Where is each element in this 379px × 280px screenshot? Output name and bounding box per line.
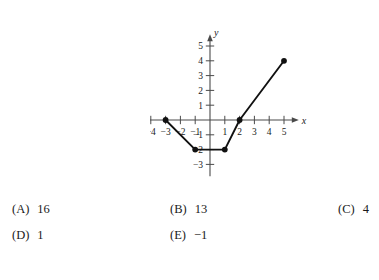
- x-axis-tick-label: 4: [267, 127, 272, 137]
- y-axis-tick-label: 2: [198, 86, 203, 96]
- answer-choice-e[interactable]: (E)−1: [170, 228, 207, 243]
- x-axis-arrow-icon: [292, 117, 299, 123]
- y-axis-label: y: [213, 27, 219, 38]
- x-axis-tick-label: 2: [237, 127, 242, 137]
- answer-choice-a-label: (A): [12, 202, 29, 217]
- data-point-marker: [237, 117, 243, 123]
- coordinate-plane: xy−5−4−3−2−112345−3−2−112345: [150, 4, 379, 190]
- x-axis-tick-label: −3: [161, 127, 171, 137]
- answer-choice-d-label: (D): [12, 228, 29, 243]
- x-axis-tick-label: −4: [150, 127, 156, 137]
- y-axis-tick-label: 5: [198, 41, 203, 51]
- answer-choice-d-value: 1: [37, 228, 43, 243]
- x-axis-label: x: [301, 115, 307, 126]
- y-axis-tick-label: 1: [198, 101, 203, 111]
- data-point-marker: [222, 147, 228, 153]
- question-figure-page: xy−5−4−3−2−112345−3−2−112345 (A)16 (B)13…: [0, 0, 379, 280]
- answer-choice-c[interactable]: (C)4: [338, 202, 369, 217]
- data-point-marker: [192, 147, 198, 153]
- x-axis-tick-label: 5: [282, 127, 287, 137]
- answer-choice-a-value: 16: [37, 202, 50, 217]
- answer-choice-d[interactable]: (D)1: [12, 228, 44, 243]
- y-axis-tick-label: 3: [198, 71, 203, 81]
- y-axis-tick-label: −3: [193, 160, 203, 170]
- x-axis-tick-label: 3: [252, 127, 257, 137]
- answer-choice-e-value: −1: [194, 228, 207, 243]
- answer-choice-a[interactable]: (A)16: [12, 202, 50, 217]
- data-point-marker: [163, 117, 169, 123]
- answer-choices: (A)16 (B)13 (C)4 (D)1 (E)−1: [0, 198, 379, 268]
- graph-figure: xy−5−4−3−2−112345−3−2−112345: [150, 4, 379, 190]
- y-axis-tick-label: −1: [193, 130, 203, 140]
- x-axis-tick-label: 1: [222, 127, 227, 137]
- answer-choice-c-value: 4: [363, 202, 369, 217]
- data-point-marker: [281, 58, 287, 64]
- y-axis-tick-label: 4: [198, 56, 203, 66]
- answer-choice-b-label: (B): [170, 202, 187, 217]
- answer-choice-b-value: 13: [195, 202, 208, 217]
- answer-choice-b[interactable]: (B)13: [170, 202, 207, 217]
- answer-choice-c-label: (C): [338, 202, 355, 217]
- y-axis-arrow-icon: [207, 34, 213, 41]
- answer-choice-e-label: (E): [170, 228, 186, 243]
